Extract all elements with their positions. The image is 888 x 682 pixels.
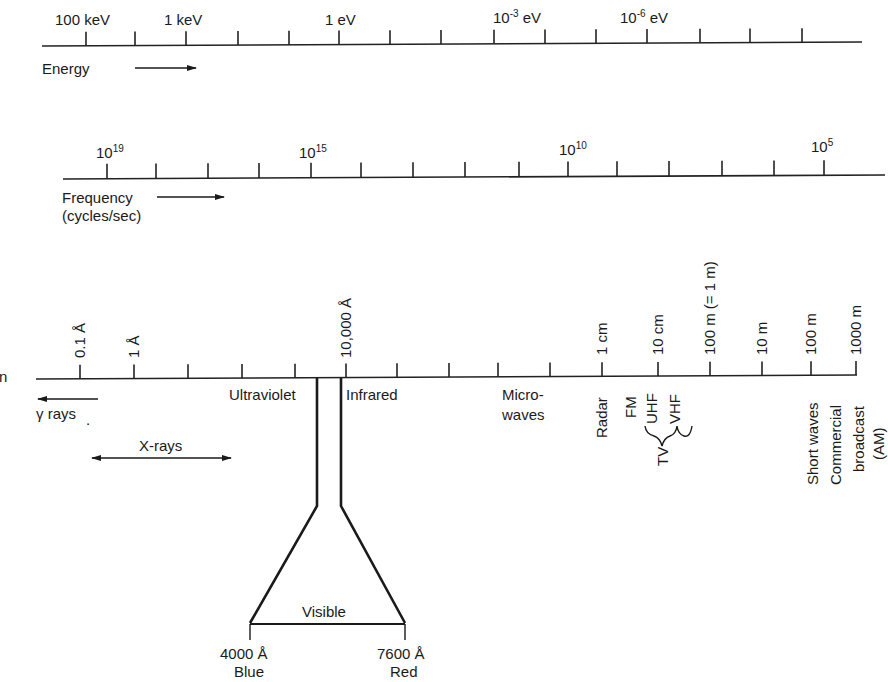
wavelength-label-10cm: 10 cm: [649, 314, 666, 355]
energy-axis-line: [42, 42, 862, 46]
commercial-broadcast-line2: broadcast: [850, 405, 867, 472]
tv-brace: [645, 426, 692, 446]
frequency-label-1e10: 1010: [559, 140, 587, 158]
visible-label: Visible: [302, 603, 346, 620]
gamma-rays-dot: .: [86, 411, 90, 428]
wavelength-axis: n 0.1 Å 1 Å 10,000 Å 1 cm 10 cm 100 m (=…: [0, 261, 864, 385]
frequency-axis-title: Frequency: [62, 189, 133, 206]
frequency-label-1e15: 1015: [299, 143, 327, 161]
frequency-label-1e19: 1019: [96, 143, 124, 161]
wavelength-axis-title-fragment: n: [0, 368, 7, 385]
frequency-axis: 1019 1015 1010 105 Frequency (cycles/sec…: [62, 137, 885, 224]
energy-axis: 100 keV 1 keV 1 eV 10-3 eV 10-6 eV Energ…: [42, 8, 862, 77]
fm-label: FM: [622, 396, 639, 418]
wavelength-label-10000a: 10,000 Å: [337, 298, 354, 358]
infrared-label: Infrared: [346, 386, 398, 403]
energy-label-1kev: 1 keV: [164, 11, 202, 28]
frequency-label-1e5: 105: [811, 137, 834, 155]
gamma-rays-label: γ rays: [36, 405, 76, 422]
energy-axis-title: Energy: [42, 60, 90, 77]
wavelength-axis-line: [36, 375, 857, 379]
microwaves-label-line2: waves: [501, 406, 545, 423]
ultraviolet-label: Ultraviolet: [229, 386, 297, 403]
frequency-axis-units: (cycles/sec): [62, 207, 141, 224]
visible-red-name: Red: [390, 663, 418, 680]
wavelength-label-1a: 1 Å: [125, 335, 142, 358]
microwaves-label-line1: Micro-: [502, 386, 544, 403]
frequency-axis-line: [63, 175, 885, 179]
visible-red-wavelength: 7600 Å: [377, 645, 425, 662]
visible-funnel-right: [341, 378, 405, 623]
uhf-label: UHF: [643, 393, 660, 424]
visible-funnel-left: [250, 378, 317, 623]
energy-label-1e-6ev: 10-6 eV: [620, 8, 668, 26]
wavelength-label-1cm: 1 cm: [593, 322, 610, 355]
wavelength-label-1000m: 1000 m: [847, 305, 864, 355]
commercial-broadcast-line3: (AM): [870, 428, 887, 461]
visible-band: Visible 4000 Å Blue 7600 Å Red: [220, 378, 425, 680]
energy-label-100kev: 100 keV: [55, 11, 110, 28]
wavelength-label-100m-eq-1m: 100 m (= 1 m): [701, 261, 718, 355]
short-waves-label: Short waves: [804, 402, 821, 485]
energy-label-1e-3ev: 10-3 eV: [493, 8, 541, 26]
wavelength-label-10m: 10 m: [753, 322, 770, 355]
visible-blue-name: Blue: [234, 663, 264, 680]
electromagnetic-spectrum-diagram: 100 keV 1 keV 1 eV 10-3 eV 10-6 eV Energ…: [0, 0, 888, 682]
wavelength-label-0-1a: 0.1 Å: [71, 323, 88, 358]
wavelength-label-100m: 100 m: [802, 313, 819, 355]
xrays-label: X-rays: [139, 437, 182, 454]
commercial-broadcast-line1: Commercial: [827, 405, 844, 485]
vhf-label: VHF: [666, 394, 683, 424]
spectrum-regions: γ rays . X-rays Ultraviolet Infrared Mic…: [36, 386, 887, 485]
visible-blue-wavelength: 4000 Å: [220, 645, 268, 662]
radar-label: Radar: [593, 397, 610, 438]
tv-label: TV: [654, 447, 671, 466]
energy-label-1ev: 1 eV: [325, 11, 356, 28]
